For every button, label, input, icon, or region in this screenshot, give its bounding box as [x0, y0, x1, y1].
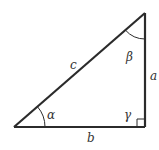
- side-a-label: a: [150, 69, 157, 83]
- side-b-label: b: [87, 131, 95, 145]
- angle-gamma-label: γ: [124, 108, 132, 122]
- angle-alpha-arc: [37, 107, 45, 127]
- angle-beta-arc: [125, 30, 145, 39]
- angle-beta-label: β: [125, 50, 133, 64]
- right-angle-marker: [137, 119, 145, 127]
- triangle-svg: c a b α β γ: [0, 0, 159, 150]
- triangle-diagram: c a b α β γ: [0, 0, 159, 150]
- angle-alpha-label: α: [47, 108, 55, 122]
- side-c-label: c: [70, 58, 77, 72]
